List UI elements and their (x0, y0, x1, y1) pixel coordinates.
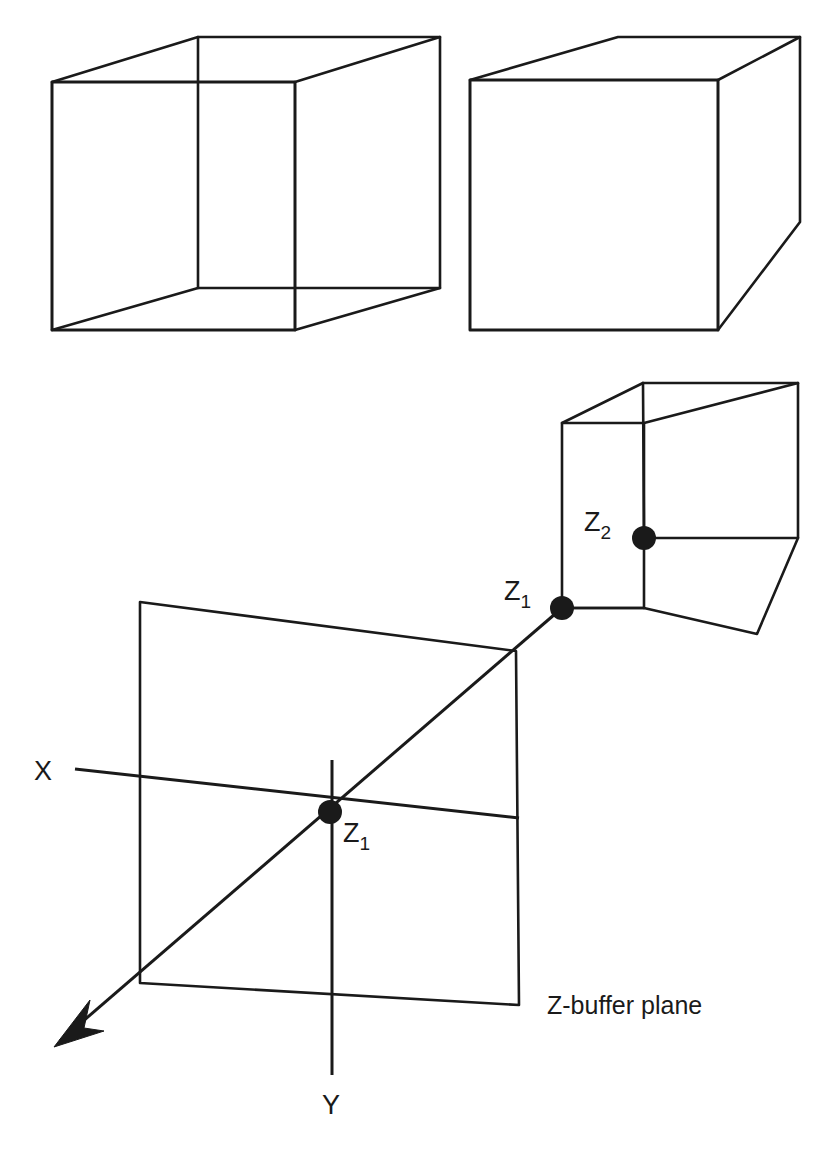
z1-cube-label-base: Z (504, 576, 521, 606)
cube1-front-face (52, 82, 295, 330)
cube3-lower-right-outline (644, 538, 798, 634)
z2-cube-label: Z2 (584, 507, 611, 543)
ray-arrow-head-icon (54, 1000, 104, 1047)
z1-plane-label: Z1 (343, 818, 370, 854)
wireframe-cube-transparent (52, 37, 440, 330)
ray-origin-to-z1cube (60, 608, 562, 1041)
axis-y-label: Y (322, 1090, 340, 1120)
figure-root: X Y Z1 Z1 Z2 Z-buffer plane (0, 0, 825, 1149)
axis-x-line (75, 769, 519, 818)
axis-x-label: X (34, 756, 52, 786)
cube2-edge-top-right (718, 37, 800, 80)
cube2-front-face (470, 80, 718, 330)
z1-cube-label-sub: 1 (521, 591, 532, 612)
cube1-edge-bottom-left (52, 288, 198, 330)
z-buffer-diagram-canvas: X Y Z1 Z1 Z2 Z-buffer plane (0, 0, 825, 1149)
axis-x (75, 769, 519, 818)
cube1-edge-top-right (295, 37, 440, 82)
z1-plane-label-base: Z (343, 818, 360, 848)
cube1-edge-bottom-right (295, 288, 440, 330)
z1-cube-label: Z1 (504, 576, 531, 612)
z1-plane-dot (318, 800, 342, 824)
cube3-back-face (643, 383, 798, 538)
z2-cube-label-base: Z (584, 507, 601, 537)
cube1-edge-top-left (52, 37, 198, 82)
cube3-front-face (562, 423, 644, 608)
wireframe-cube-opaque (470, 37, 800, 330)
projection-ray (54, 608, 562, 1047)
z1-cube-dot (550, 596, 574, 620)
cube3-edge-top-left (562, 383, 643, 423)
z1-plane-label-sub: 1 (360, 833, 371, 854)
cube3-edge-top-right (644, 383, 798, 423)
z2-cube-dot (632, 526, 656, 550)
cube3-edge-inner-vertical (643, 383, 644, 538)
z2-cube-label-sub: 2 (601, 522, 612, 543)
z-buffer-plane-caption: Z-buffer plane (547, 991, 702, 1019)
